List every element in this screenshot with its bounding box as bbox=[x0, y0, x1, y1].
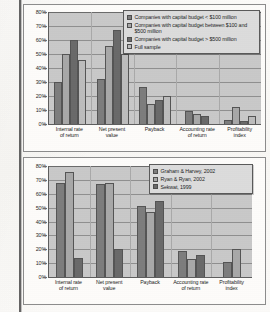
bar bbox=[232, 107, 240, 124]
legend-swatch-icon bbox=[153, 184, 158, 189]
y-tick-mark bbox=[43, 26, 47, 27]
bar bbox=[232, 249, 241, 277]
x-axis-labels-top: Internal rateof returnNet presentvaluePa… bbox=[48, 126, 261, 138]
y-tick-mark bbox=[43, 12, 47, 13]
bar bbox=[178, 251, 187, 277]
x-axis-label: Payback bbox=[133, 126, 176, 138]
chart-capital-budget-size: 0%10%20%30%40%50%60%70%80% Internal rate… bbox=[23, 4, 266, 152]
bar bbox=[193, 114, 201, 124]
y-tick-mark bbox=[43, 277, 47, 278]
bar bbox=[196, 255, 205, 277]
bar bbox=[146, 212, 155, 277]
bar bbox=[185, 111, 193, 124]
x-axis-label: Internal rateof return bbox=[48, 279, 89, 291]
bar bbox=[139, 87, 147, 124]
x-axis-label: Profitabilityindex bbox=[218, 126, 261, 138]
bar bbox=[163, 96, 171, 124]
y-axis-bottom: 0%10%20%30%40%50%60%70%80% bbox=[24, 158, 47, 304]
bar bbox=[147, 104, 155, 124]
bar bbox=[96, 184, 105, 277]
legend-swatch-icon bbox=[153, 177, 158, 182]
bar bbox=[201, 116, 209, 124]
legend-bottom: Graham & Harvey, 2002Ryan & Ryan, 2002Se… bbox=[149, 164, 253, 194]
y-tick-mark bbox=[43, 194, 47, 195]
x-axis-label: Net presentvalue bbox=[91, 126, 134, 138]
legend-swatch-icon bbox=[153, 169, 158, 174]
bar bbox=[223, 262, 232, 277]
y-axis-top: 0%10%20%30%40%50%60%70%80% bbox=[24, 5, 47, 151]
legend-label: Graham & Harvey, 2002 bbox=[161, 168, 216, 174]
legend-item: Companies with capital budget between $1… bbox=[127, 22, 256, 35]
x-axis-label: Accounting rateof return bbox=[170, 279, 211, 291]
legend-label: Companies with capital budget > $500 mil… bbox=[135, 36, 237, 42]
legend-label: Full sample bbox=[135, 44, 161, 50]
bar-group bbox=[90, 166, 131, 277]
bar bbox=[137, 206, 146, 277]
legend-item: Sekwat, 1999 bbox=[153, 184, 249, 190]
bar bbox=[224, 120, 232, 124]
y-tick-mark bbox=[43, 54, 47, 55]
x-axis-labels-bottom: Internal rateof returnNet presentvaluePa… bbox=[48, 279, 252, 291]
bar bbox=[105, 46, 113, 124]
bar bbox=[155, 201, 164, 277]
legend-label: Sekwat, 1999 bbox=[161, 184, 192, 190]
legend-top: Companies with capital budget < $100 mil… bbox=[123, 10, 260, 54]
legend-item: Ryan & Ryan, 2002 bbox=[153, 176, 249, 182]
bar bbox=[187, 259, 196, 277]
x-axis-label: Net presentvalue bbox=[89, 279, 130, 291]
y-tick-mark bbox=[43, 124, 47, 125]
legend-item: Graham & Harvey, 2002 bbox=[153, 168, 249, 174]
bar bbox=[240, 121, 248, 125]
chart-studies-comparison: 0%10%20%30%40%50%60%70%80% Internal rate… bbox=[23, 157, 266, 305]
bar bbox=[74, 258, 83, 277]
y-tick-mark bbox=[43, 68, 47, 69]
bar bbox=[155, 100, 163, 124]
legend-label: Companies with capital budget between $1… bbox=[135, 22, 257, 35]
y-tick-mark bbox=[43, 180, 47, 181]
legend-swatch-icon bbox=[127, 44, 132, 49]
bar bbox=[114, 249, 123, 277]
bar bbox=[78, 60, 86, 124]
y-tick-mark bbox=[43, 166, 47, 167]
y-tick-mark bbox=[43, 96, 47, 97]
x-axis-label: Payback bbox=[130, 279, 171, 291]
bar bbox=[105, 183, 114, 277]
y-tick-mark bbox=[43, 208, 47, 209]
bar bbox=[70, 40, 78, 124]
x-axis-label: Accounting rateof return bbox=[176, 126, 219, 138]
y-tick-mark bbox=[43, 235, 47, 236]
y-tick-mark bbox=[43, 249, 47, 250]
legend-item: Full sample bbox=[127, 44, 256, 50]
y-tick-mark bbox=[43, 110, 47, 111]
legend-label: Ryan & Ryan, 2002 bbox=[161, 176, 205, 182]
legend-swatch-icon bbox=[127, 23, 132, 28]
bar-group bbox=[49, 166, 90, 277]
book-gutter-shadow bbox=[21, 0, 22, 312]
x-axis-label: Internal rateof return bbox=[48, 126, 91, 138]
y-tick-mark bbox=[43, 222, 47, 223]
y-tick-mark bbox=[43, 82, 47, 83]
y-tick-mark bbox=[43, 263, 47, 264]
bar bbox=[56, 183, 65, 277]
bar bbox=[248, 116, 256, 124]
bar bbox=[62, 54, 70, 124]
legend-swatch-icon bbox=[127, 37, 132, 42]
bar bbox=[121, 54, 129, 124]
legend-item: Companies with capital budget < $100 mil… bbox=[127, 14, 256, 20]
x-axis-label: Profitabilityindex bbox=[211, 279, 252, 291]
legend-label: Companies with capital budget < $100 mil… bbox=[135, 14, 237, 20]
bar-group bbox=[49, 12, 91, 124]
bar bbox=[54, 82, 62, 124]
bar bbox=[65, 172, 74, 277]
legend-swatch-icon bbox=[127, 15, 132, 20]
bar bbox=[97, 79, 105, 125]
legend-item: Companies with capital budget > $500 mil… bbox=[127, 36, 256, 42]
bar bbox=[113, 30, 121, 124]
y-tick-mark bbox=[43, 40, 47, 41]
